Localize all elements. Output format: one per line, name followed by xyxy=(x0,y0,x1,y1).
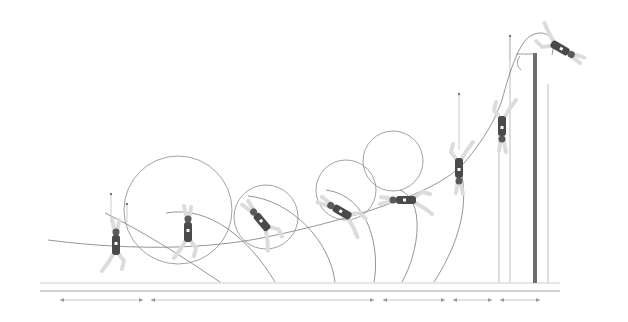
arrow-right-icon xyxy=(370,298,374,302)
arrow-left-icon xyxy=(500,298,504,302)
arrow-left-icon xyxy=(383,298,387,302)
athlete-push-off xyxy=(494,100,516,152)
pole-arc-6 xyxy=(434,176,464,282)
arrow-right-icon xyxy=(139,298,143,302)
arrow-left-icon xyxy=(60,298,64,302)
arrow-left-icon xyxy=(453,298,457,302)
distance-segment xyxy=(151,298,374,302)
distance-segment xyxy=(500,298,540,302)
marker-dot xyxy=(110,193,112,195)
distance-segment xyxy=(453,298,492,302)
athlete-phases xyxy=(102,23,590,271)
athlete-extension xyxy=(380,192,432,214)
athlete-rock-back xyxy=(312,192,368,237)
arrow-right-icon xyxy=(536,298,540,302)
distance-segment xyxy=(60,298,143,302)
marker-dot xyxy=(126,203,128,205)
runway-ground xyxy=(40,283,560,291)
athlete-pole-plant xyxy=(174,206,196,258)
rotation-circle xyxy=(124,156,232,264)
reference-lines xyxy=(499,36,548,283)
marker-dot xyxy=(509,35,511,37)
arrow-right-icon xyxy=(441,298,445,302)
athlete-head xyxy=(456,178,463,185)
arrow-left-icon xyxy=(151,298,155,302)
athlete-head xyxy=(113,229,120,236)
bar-hook xyxy=(517,56,521,70)
diagram-canvas xyxy=(0,0,628,322)
athlete-take-off xyxy=(102,219,124,271)
rotation-circles xyxy=(124,131,423,264)
vault-upright xyxy=(516,53,537,283)
athlete-head xyxy=(499,136,506,143)
rotation-circle xyxy=(363,131,423,191)
athlete-swing xyxy=(235,197,285,251)
marker-dot xyxy=(458,93,460,95)
phase-distance-markers xyxy=(60,298,540,302)
pole-arc-3 xyxy=(248,196,335,282)
distance-segment xyxy=(383,298,445,302)
athlete-bar-clearance xyxy=(533,23,589,68)
athlete-head xyxy=(185,216,192,223)
center-of-mass-trajectory xyxy=(48,33,553,247)
athlete-pull-turn xyxy=(451,142,473,194)
arrow-right-icon xyxy=(488,298,492,302)
vertical-markers xyxy=(110,35,511,222)
pole-arcs xyxy=(0,0,464,282)
athlete-head xyxy=(390,197,397,204)
pole-vault-diagram xyxy=(0,0,628,322)
